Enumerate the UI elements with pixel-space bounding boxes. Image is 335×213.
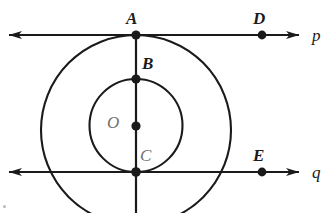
point-label-e: E <box>253 147 264 164</box>
diagram-canvas <box>0 0 335 213</box>
geometry-diagram: A B O C D E p q <box>0 0 335 213</box>
point-label-b: B <box>142 55 153 72</box>
line-label-p: p <box>312 27 321 44</box>
point-b-dot <box>131 74 140 83</box>
point-label-d: D <box>253 10 265 27</box>
point-label-c: C <box>140 147 151 164</box>
point-a-dot <box>131 30 140 39</box>
point-label-a: A <box>126 10 137 27</box>
point-o-dot <box>131 121 140 130</box>
point-e-dot <box>258 168 267 177</box>
point-d-dot <box>258 31 267 40</box>
line-label-q: q <box>312 164 321 181</box>
point-c-dot <box>131 167 141 177</box>
scan-artifact-speck <box>3 205 6 208</box>
point-label-o: O <box>107 114 119 131</box>
